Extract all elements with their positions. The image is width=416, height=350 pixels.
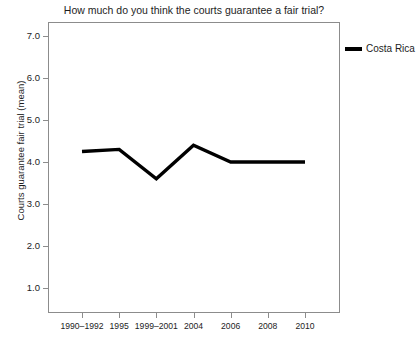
y-tick-label: 2.0 <box>27 239 40 252</box>
y-tick-label: 5.0 <box>27 113 40 126</box>
chart-title: How much do you think the courts guarant… <box>48 3 340 17</box>
x-tick-mark <box>156 313 157 318</box>
x-tick-mark <box>305 313 306 318</box>
legend: Costa Rica <box>345 43 415 54</box>
x-tick-label: 2004 <box>184 320 203 332</box>
x-tick-label: 2006 <box>221 320 240 332</box>
x-tick-label: 1990–1992 <box>60 320 103 332</box>
x-tick-mark <box>231 313 232 318</box>
x-tick-label: 2010 <box>295 320 314 332</box>
x-tick-mark <box>194 313 195 318</box>
legend-label-costa-rica: Costa Rica <box>366 43 415 54</box>
x-tick-mark <box>268 313 269 318</box>
y-tick-label: 1.0 <box>27 281 40 294</box>
y-tick-label: 3.0 <box>27 197 40 210</box>
y-tick-label: 4.0 <box>27 155 40 168</box>
chart-figure: How much do you think the courts guarant… <box>0 0 416 350</box>
x-tick-mark <box>119 313 120 318</box>
y-axis-tick: 3.0 <box>0 204 48 205</box>
y-tick-label: 7.0 <box>27 29 40 42</box>
y-axis-tick: 6.0 <box>0 78 48 79</box>
x-tick-label: 2008 <box>258 320 277 332</box>
y-axis-tick: 4.0 <box>0 162 48 163</box>
y-axis-tick: 5.0 <box>0 120 48 121</box>
legend-swatch-costa-rica <box>345 47 362 51</box>
x-tick-label: 1999–2001 <box>135 320 178 332</box>
x-tick-label: 1995 <box>110 320 129 332</box>
y-axis-tick: 1.0 <box>0 288 48 289</box>
series-layer <box>48 22 340 313</box>
series-line-costa-rica <box>82 145 305 179</box>
y-axis-tick: 7.0 <box>0 36 48 37</box>
x-tick-mark <box>82 313 83 318</box>
y-tick-label: 6.0 <box>27 71 40 84</box>
y-axis-label: Courts guarantee fair trial (mean) <box>15 1 26 301</box>
y-axis-tick: 2.0 <box>0 246 48 247</box>
